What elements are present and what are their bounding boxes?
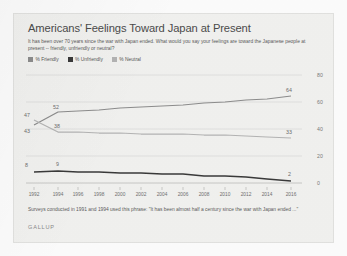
legend-swatch-unfriendly <box>68 57 73 62</box>
legend-swatch-neutral <box>112 57 117 62</box>
y-axis-tick-40: 40 <box>317 126 329 132</box>
gridlines <box>26 75 302 183</box>
legend-item-neutral[interactable]: % Neutral <box>112 57 141 62</box>
y-axis-tick-80: 80 <box>317 72 329 78</box>
x-axis-tick-1996: 1996 <box>73 192 84 197</box>
x-axis-tick-2004: 2004 <box>157 192 168 197</box>
x-axis-tick-2016: 2016 <box>286 192 297 197</box>
point-label-unfriendly-end: 2 <box>288 171 291 177</box>
gallup-logo: GALLUP <box>28 224 55 230</box>
x-axis-tick-2008: 2008 <box>199 192 210 197</box>
legend-item-friendly[interactable]: % Friendly <box>28 57 59 62</box>
point-label-friendly-1994: 52 <box>53 104 59 110</box>
point-label-friendly-end: 64 <box>286 87 292 93</box>
x-axis-tick-1998: 1998 <box>94 192 105 197</box>
x-axis-tick-2012: 2012 <box>241 192 252 197</box>
page-title: Americans' Feelings Toward Japan at Pres… <box>28 22 251 34</box>
x-axis-tick-1994: 1994 <box>53 192 64 197</box>
point-label-neutral-start: 47 <box>24 112 30 118</box>
chart-plot-area: 80 60 40 20 0 47 43 8 52 38 9 64 33 2 <box>14 71 335 187</box>
legend-swatch-friendly <box>28 57 33 62</box>
y-axis-tick-60: 60 <box>317 99 329 105</box>
x-axis-tick-2002: 2002 <box>136 192 147 197</box>
chart-subtitle: It has been over 70 years since the war … <box>28 38 318 53</box>
x-axis-tick-1992: 1992 <box>29 192 40 197</box>
chart-footnote: Surveys conducted in 1991 and 1994 used … <box>28 206 308 213</box>
x-axis: 1992 1994 1996 1998 2000 2002 2004 2006 … <box>14 187 335 203</box>
point-label-neutral-1994: 38 <box>54 123 60 129</box>
screenshot-page: Americans' Feelings Toward Japan at Pres… <box>0 0 347 256</box>
point-label-neutral-end: 33 <box>286 129 292 135</box>
y-axis-tick-0: 0 <box>317 180 329 186</box>
legend-label-friendly: % Friendly <box>36 57 59 62</box>
series-line-unfriendly <box>34 171 291 181</box>
x-axis-tick-2010: 2010 <box>220 192 231 197</box>
legend-item-unfriendly[interactable]: % Unfriendly <box>68 57 103 62</box>
series-line-friendly <box>34 96 291 125</box>
point-label-unfriendly-start: 8 <box>25 162 28 168</box>
chart-legend: % Friendly % Unfriendly % Neutral <box>28 57 141 62</box>
legend-label-unfriendly: % Unfriendly <box>75 57 103 62</box>
x-axis-tick-2000: 2000 <box>115 192 126 197</box>
point-label-unfriendly-1994: 9 <box>56 161 59 167</box>
x-axis-tick-2014: 2014 <box>262 192 273 197</box>
y-axis-tick-20: 20 <box>317 153 329 159</box>
chart-card: Americans' Feelings Toward Japan at Pres… <box>13 13 334 243</box>
point-label-friendly-start: 43 <box>24 128 30 134</box>
legend-label-neutral: % Neutral <box>119 57 140 62</box>
x-axis-tick-2006: 2006 <box>178 192 189 197</box>
